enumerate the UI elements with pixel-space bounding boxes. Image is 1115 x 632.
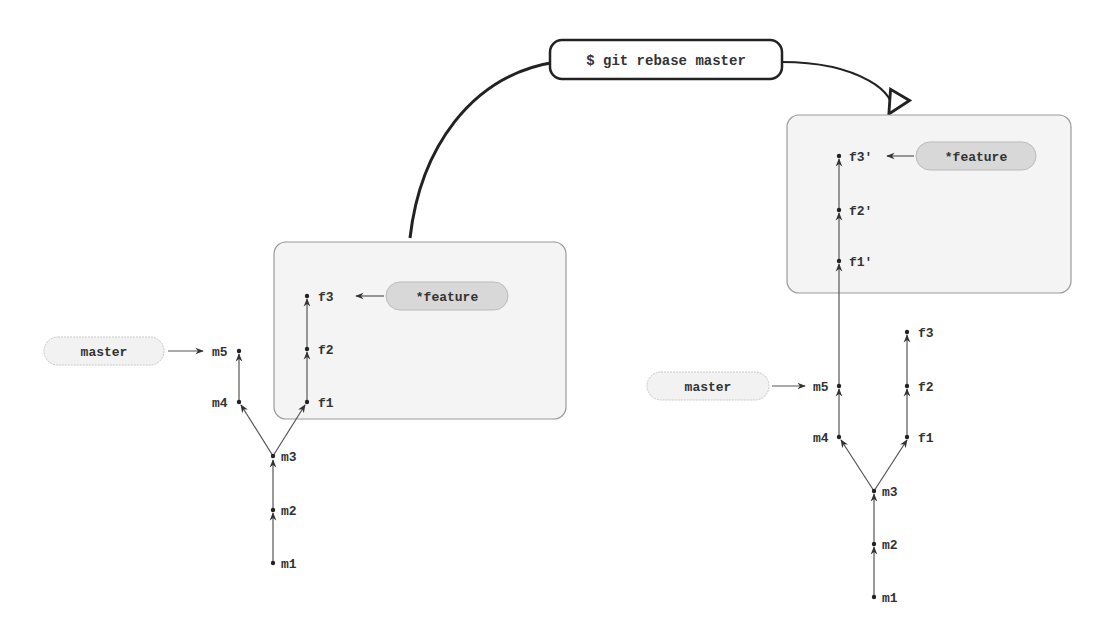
- git-rebase-diagram: $ git rebase master master *feature: [0, 0, 1115, 632]
- commit-f2: f2: [318, 343, 334, 358]
- commit-f3: f3: [918, 326, 934, 341]
- after-feature-label: *feature: [945, 150, 1008, 165]
- before-feature-box: [274, 242, 566, 419]
- command-box: $ git rebase master: [550, 40, 782, 79]
- after-state: *feature master m1 m2 m3: [647, 115, 1071, 606]
- commit-m3: m3: [281, 450, 297, 465]
- commit-m1: m1: [882, 591, 898, 606]
- commit-m4: m4: [813, 431, 829, 446]
- commit-f2: f2: [918, 380, 934, 395]
- before-state: master *feature m1 m2 m3 m4 m5 f1 f2: [44, 242, 566, 572]
- commit-m5: m5: [813, 380, 829, 395]
- commit-f1: f1: [918, 431, 934, 446]
- before-master-label: master: [81, 345, 128, 360]
- command-label: $ git rebase master: [586, 53, 746, 69]
- commit-f1-rebased: f1': [849, 255, 872, 270]
- before-feature-label: *feature: [416, 290, 479, 305]
- commit-m4: m4: [212, 396, 228, 411]
- commit-m2: m2: [882, 538, 898, 553]
- commit-f2-rebased: f2': [849, 204, 872, 219]
- commit-m2: m2: [281, 504, 297, 519]
- commit-f1: f1: [318, 396, 334, 411]
- commit-m3: m3: [882, 485, 898, 500]
- commit-m1: m1: [281, 557, 297, 572]
- commit-m5: m5: [212, 345, 228, 360]
- commit-f3-rebased: f3': [849, 150, 872, 165]
- after-master-label: master: [685, 380, 732, 395]
- commit-f3: f3: [318, 290, 334, 305]
